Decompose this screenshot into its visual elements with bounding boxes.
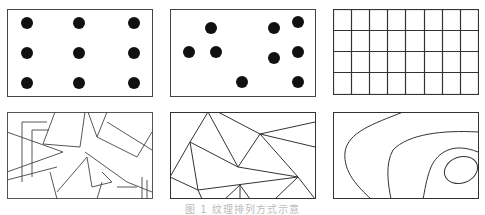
- triangulation-figure: [170, 112, 316, 199]
- panel-regular-dots: [7, 9, 153, 97]
- figure-caption: 图 1 纹理排列方式示意: [0, 201, 485, 215]
- grid-figure: [333, 9, 479, 95]
- overlapping-polygons-figure: [7, 112, 153, 199]
- random-dots-figure: [170, 9, 316, 97]
- panel-random-dots: [170, 9, 316, 97]
- contours-figure: [333, 112, 479, 199]
- panel-overlapping-polygons: [7, 112, 153, 199]
- panel-triangulation: [170, 112, 316, 199]
- regular-dots-figure: [7, 9, 153, 97]
- panel-grid: [333, 9, 479, 95]
- panel-contours: [333, 112, 479, 199]
